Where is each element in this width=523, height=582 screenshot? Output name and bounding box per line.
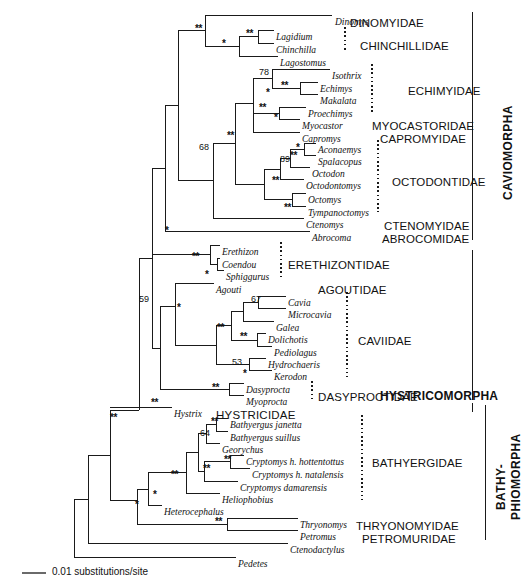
taxon-label-ctenodactylus: Ctenodactylus xyxy=(290,546,344,556)
support-star-1: ** xyxy=(246,29,253,39)
family-label-thryonomyidae: THRYONOMYIDAE xyxy=(356,521,459,533)
support-star-5: ** xyxy=(259,103,266,113)
taxon-label-isothrix: Isothrix xyxy=(332,72,362,82)
taxon-label-bathyergus-janetta: Bathyergus janetta xyxy=(230,421,302,431)
taxon-label-octomys: Octomys xyxy=(308,196,341,206)
taxon-label-dasyprocta: Dasyprocta xyxy=(246,386,290,396)
taxon-label-lagidium: Lagidium xyxy=(276,33,312,43)
taxon-label-kerodon: Kerodon xyxy=(274,373,307,383)
support-star-26: * xyxy=(135,500,138,510)
taxon-label-heliophobius: Heliophobius xyxy=(222,496,273,506)
suborder-label-hystricidae: HYSTRICIDAE xyxy=(216,410,296,422)
taxon-label-octodon: Octodon xyxy=(312,170,345,180)
support-star-9: ** xyxy=(290,151,297,161)
taxon-label-ctenomys: Ctenomys xyxy=(306,221,343,231)
taxon-label-bathyergus-suillus: Bathyergus suillus xyxy=(230,434,300,444)
taxon-label-petromus: Petromus xyxy=(300,533,336,543)
family-label-bathyergidae: BATHYERGIDAE xyxy=(372,458,462,470)
taxon-label-proechimys: Proechimys xyxy=(308,110,353,120)
taxon-label-makalata: Makalata xyxy=(320,97,356,107)
taxon-label-myocastor: Myocastor xyxy=(302,122,343,132)
support-star-28: ** xyxy=(110,413,117,423)
bootstrap-value-53: 53 xyxy=(232,358,242,367)
family-label-myocastoridae: MYOCASTORIDAE xyxy=(372,121,474,133)
vertical-label-bathy: BATHY- xyxy=(495,464,507,510)
suborder-label-hystricomorpha: HYSTRICOMORPHA xyxy=(380,390,498,402)
support-star-7: ** xyxy=(227,131,234,141)
support-star-14: * xyxy=(205,270,208,280)
taxon-label-cryptomys-h-natalensis: Cryptomys h. natalensis xyxy=(252,471,344,481)
taxon-label-agouti: Agouti xyxy=(216,286,241,296)
family-label-erethizontidae: ERETHIZONTIDAE xyxy=(288,260,390,272)
taxon-label-capromys: Capromys xyxy=(302,135,341,145)
support-star-11: ** xyxy=(284,203,291,213)
taxon-label-dolichotis: Dolichotis xyxy=(268,336,308,346)
family-label-caviidae: CAVIIDAE xyxy=(358,336,412,348)
taxon-label-pedetes: Pedetes xyxy=(238,560,268,570)
bootstrap-value-78: 78 xyxy=(259,68,269,77)
vertical-label-phiomorpha: PHIOMORPHA xyxy=(510,433,522,520)
taxon-label-abrocoma: Abrocoma xyxy=(312,234,351,244)
family-label-echimyidae: ECHIMYIDAE xyxy=(408,86,481,98)
support-star-17: ** xyxy=(240,332,247,342)
support-star-27: ** xyxy=(215,517,222,527)
taxon-label-lagostomus: Lagostomus xyxy=(280,59,326,69)
support-star-15: * xyxy=(177,303,180,313)
support-star-24: ** xyxy=(171,470,178,480)
support-star-0: ** xyxy=(195,24,202,34)
taxon-label-thryonomys: Thryonomys xyxy=(300,521,347,531)
taxon-label-cryptomys-h-hottentottus: Cryptomys h. hottentottus xyxy=(246,458,344,468)
taxon-label-hydrochaeris: Hydrochaeris xyxy=(268,361,320,371)
taxon-label-hystrix: Hystrix xyxy=(174,410,202,420)
support-star-16: ** xyxy=(217,323,224,333)
taxon-label-tympanoctomys: Tympanoctomys xyxy=(308,209,369,219)
taxon-label-octodontomys: Octodontomys xyxy=(306,182,361,192)
bootstrap-value-68: 68 xyxy=(199,143,209,152)
taxon-label-spalacopus: Spalacopus xyxy=(318,158,362,168)
taxon-label-echimys: Echimys xyxy=(320,85,352,95)
support-star-13: ** xyxy=(192,252,199,262)
support-star-6: * xyxy=(274,113,277,123)
support-star-23: ** xyxy=(203,464,210,474)
family-label-dinomyidae: DINOMYIDAE xyxy=(350,18,424,30)
scale-bar-label: 0.01 substitutions/site xyxy=(52,567,148,577)
support-star-21: ** xyxy=(211,417,218,427)
support-star-3: ** xyxy=(281,81,288,91)
family-label-capromyidae: CAPROMYIDAE xyxy=(380,134,466,146)
support-star-12: * xyxy=(165,226,168,236)
vertical-label-caviomorpha: CAVIOMORPHA xyxy=(502,105,514,200)
taxon-label-aconaemys: Aconaemys xyxy=(318,146,361,156)
taxon-label-galea: Galea xyxy=(276,324,299,334)
support-star-10: ** xyxy=(272,176,279,186)
taxon-label-pediolagus: Pediolagus xyxy=(274,349,317,359)
family-label-octodontidae: OCTODONTIDAE xyxy=(392,177,486,189)
taxon-label-erethizon: Erethizon xyxy=(222,248,259,258)
support-star-20: ** xyxy=(151,398,158,408)
support-star-22: ** xyxy=(224,455,231,465)
taxon-label-coendou: Coendou xyxy=(222,261,256,271)
taxon-label-chinchilla: Chinchilla xyxy=(276,46,316,56)
support-star-2: * xyxy=(222,39,225,49)
taxon-label-cryptomys-damarensis: Cryptomys damarensis xyxy=(240,484,327,494)
taxon-label-cavia: Cavia xyxy=(288,299,311,309)
family-label-ctenomyidae: CTENOMYIDAE xyxy=(384,221,469,233)
taxon-label-microcavia: Microcavia xyxy=(288,311,331,321)
support-star-25: * xyxy=(153,490,156,500)
support-star-18: * xyxy=(243,369,246,379)
family-label-chinchillidae: CHINCHILLIDAE xyxy=(360,41,449,53)
support-star-4: * xyxy=(266,88,269,98)
taxon-label-sphiggurus: Sphiggurus xyxy=(226,273,269,283)
family-label-agoutidae: AGOUTIDAE xyxy=(318,285,387,297)
taxon-label-myoprocta: Myoprocta xyxy=(246,398,287,408)
family-label-petromuridae: PETROMURIDAE xyxy=(362,534,456,546)
support-star-19: ** xyxy=(212,383,219,393)
bootstrap-value-67: 67 xyxy=(251,295,261,304)
bootstrap-value-89: 89 xyxy=(280,155,290,164)
bootstrap-value-64: 64 xyxy=(200,429,210,438)
bootstrap-value-59: 59 xyxy=(139,295,149,304)
family-label-abrocomidae: ABROCOMIDAE xyxy=(382,234,469,246)
